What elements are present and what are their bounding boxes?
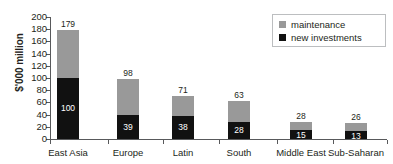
bar-segment-maintenance-latin[interactable] (172, 96, 194, 116)
y-axis-tick-label: 120 (7, 61, 47, 71)
legend-item-new-investments[interactable]: new investments (279, 31, 362, 44)
y-axis-tick-label: 160 (7, 36, 47, 46)
bar-segment-new-investments-south[interactable]: 28 (228, 122, 250, 139)
bar-total-label-middle-east: 28 (271, 112, 331, 121)
bar-total-label-sub-saharan: 26 (326, 113, 386, 122)
bar-south[interactable]: 28 (228, 101, 250, 139)
bar-segment-maintenance-south[interactable] (228, 101, 250, 122)
y-axis-tick-label: 80 (7, 85, 47, 95)
legend-swatch-maintenance-icon (279, 21, 286, 28)
bar-segment-new-investments-europe[interactable]: 39 (117, 115, 139, 139)
bar-segment-maintenance-east-asia[interactable] (57, 30, 79, 78)
bar-segment-maintenance-middle-east[interactable] (290, 122, 312, 130)
bar-total-label-south: 63 (209, 91, 269, 100)
bar-segment-new-investments-east-asia[interactable]: 100 (57, 78, 79, 139)
legend-label-new-investments: new investments (291, 33, 362, 43)
bar-value-label-new-investments-east-asia: 100 (57, 104, 79, 113)
y-axis-tick-label: 100 (7, 73, 47, 83)
bar-middle-east[interactable]: 15 (290, 122, 312, 139)
bar-value-label-new-investments-middle-east: 15 (290, 131, 312, 140)
bar-total-label-europe: 98 (98, 69, 158, 78)
x-axis-tick (108, 140, 109, 144)
bar-latin[interactable]: 38 (172, 96, 194, 139)
y-axis-tick-label: 60 (7, 97, 47, 107)
y-axis-tick-label: 0 (7, 134, 47, 144)
bar-segment-maintenance-europe[interactable] (117, 79, 139, 115)
bar-total-label-east-asia: 179 (38, 20, 98, 29)
x-axis-tick (50, 140, 51, 144)
x-axis-tick (277, 140, 278, 144)
bar-east-asia[interactable]: 100 (57, 30, 79, 139)
stacked-bar-chart: $'000 million 20018016014012010080604020… (0, 0, 393, 164)
x-axis-tick (163, 140, 164, 144)
bar-value-label-new-investments-europe: 39 (117, 123, 139, 132)
legend-label-maintenance: maintenance (291, 20, 345, 30)
legend-swatch-new-investments-icon (279, 34, 286, 41)
bar-segment-maintenance-sub-saharan[interactable] (345, 123, 367, 131)
bar-segment-new-investments-sub-saharan[interactable]: 13 (345, 131, 367, 139)
bar-value-label-new-investments-latin: 38 (172, 123, 194, 132)
bar-value-label-new-investments-south: 28 (228, 126, 250, 135)
y-axis-tick-label: 20 (7, 122, 47, 132)
legend-item-maintenance[interactable]: maintenance (279, 18, 345, 31)
bar-segment-new-investments-middle-east[interactable]: 15 (290, 130, 312, 139)
bar-segment-new-investments-latin[interactable]: 38 (172, 116, 194, 139)
x-axis-tick (219, 140, 220, 144)
bar-value-label-new-investments-sub-saharan: 13 (345, 132, 367, 141)
y-axis-tick-label: 140 (7, 49, 47, 59)
x-axis-label-sub-saharan: Sub-Saharan (311, 147, 393, 158)
y-axis-tick-label: 40 (7, 110, 47, 120)
x-axis-tick (333, 140, 334, 144)
bar-europe[interactable]: 39 (117, 79, 139, 139)
x-axis-tick (387, 140, 388, 144)
bar-sub-saharan[interactable]: 13 (345, 123, 367, 139)
legend: maintenance new investments (272, 14, 386, 47)
bar-total-label-latin: 71 (153, 86, 213, 95)
